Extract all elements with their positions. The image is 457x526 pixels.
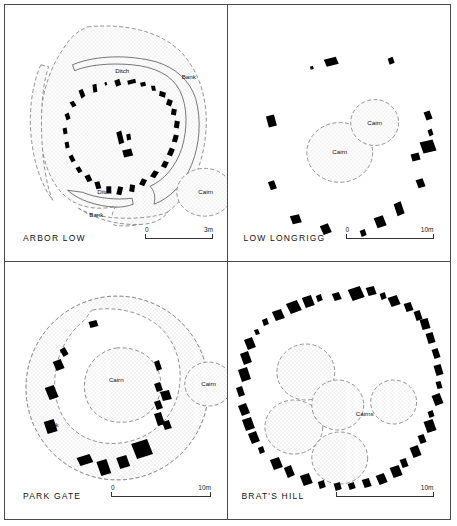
- scalebar-label-end: 10m: [421, 484, 434, 491]
- scalebar-label-start: 0: [111, 484, 115, 491]
- scalebar-label-end: 3m: [204, 226, 213, 233]
- svg-text:Cairns: Cairns: [355, 410, 373, 417]
- scalebar-label-start: 0: [346, 226, 350, 233]
- svg-text:Ditch: Ditch: [115, 67, 130, 74]
- panel-grid: Ditch Bank Ditch Bank Cairn ARBOR LOW 0 …: [5, 5, 450, 519]
- scalebar-park-gate: 0 10m: [111, 485, 211, 497]
- scalebar-brats-hill: 0 10m: [336, 485, 434, 497]
- scalebar-low-longrigg: 0 10m: [346, 227, 434, 239]
- scalebar-tick-start: [336, 492, 337, 497]
- svg-text:Bank: Bank: [182, 73, 197, 80]
- arbor-low-plan: Ditch Bank Ditch Bank Cairn: [5, 5, 227, 261]
- svg-text:Cairn: Cairn: [367, 119, 382, 126]
- park-gate-cairn-central: [84, 348, 160, 422]
- scalebar-line: [111, 496, 211, 497]
- brats-hill-map-labels: Cairns: [355, 410, 373, 417]
- panel-title-brats-hill: BRAT'S HILL: [242, 491, 305, 501]
- panel-title-park-gate: PARK GATE: [23, 491, 81, 501]
- scalebar-line: [336, 496, 434, 497]
- scalebar-line: [145, 238, 213, 239]
- panel-park-gate: Cairn Cairn Bank PARK GATE 0 10m: [5, 262, 228, 519]
- scalebar-tick-start: [111, 492, 112, 497]
- panel-arbor-low: Ditch Bank Ditch Bank Cairn ARBOR LOW 0 …: [5, 5, 228, 262]
- scalebar-label-start: 0: [145, 226, 149, 233]
- svg-text:Ditch: Ditch: [97, 188, 112, 195]
- scalebar-line: [346, 238, 434, 239]
- scalebar-tick-start: [145, 234, 146, 239]
- svg-text:Bank: Bank: [89, 211, 104, 218]
- panel-brats-hill: Cairns BRAT'S HILL 0 10m: [228, 262, 451, 519]
- scalebar-arbor-low: 0 3m: [145, 227, 213, 239]
- svg-text:Cairn: Cairn: [198, 188, 213, 195]
- low-longrigg-plan: Cairn Cairn: [228, 5, 451, 261]
- panel-title-arbor-low: ARBOR LOW: [23, 233, 86, 243]
- scalebar-tick-end: [433, 234, 434, 239]
- brats-hill-plan: Cairns: [228, 262, 451, 519]
- svg-text:Cairn: Cairn: [332, 148, 347, 155]
- panel-title-low-longrigg: LOW LONGRIGG: [244, 233, 326, 243]
- scalebar-label-end: 10m: [421, 226, 434, 233]
- scalebar-tick-end: [212, 234, 213, 239]
- scalebar-label-start: 0: [336, 484, 340, 491]
- scalebar-tick-start: [346, 234, 347, 239]
- scalebar-label-end: 10m: [198, 484, 211, 491]
- scalebar-tick-end: [210, 492, 211, 497]
- scalebar-tick-end: [433, 492, 434, 497]
- park-gate-plan: Cairn Cairn Bank: [5, 262, 227, 519]
- svg-text:Cairn: Cairn: [109, 376, 124, 383]
- panel-low-longrigg: Cairn Cairn LOW LONGRIGG 0 10m: [228, 5, 451, 262]
- figure-frame: Ditch Bank Ditch Bank Cairn ARBOR LOW 0 …: [4, 4, 451, 520]
- svg-text:Cairn: Cairn: [201, 380, 216, 387]
- svg-text:Bank: Bank: [45, 421, 60, 428]
- brats-hill-cairns: [264, 344, 416, 484]
